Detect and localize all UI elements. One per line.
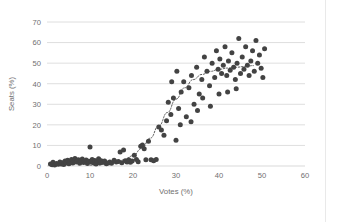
x-tick-label-10: 10 xyxy=(86,171,94,180)
datapoint xyxy=(221,63,226,68)
x-tick-label-20: 20 xyxy=(129,171,137,180)
y-tick-label-10: 10 xyxy=(33,141,41,150)
datapoint xyxy=(243,44,248,49)
datapoint xyxy=(223,44,228,49)
datapoint xyxy=(176,106,181,111)
datapoint xyxy=(214,48,219,53)
datapoint xyxy=(121,147,126,152)
datapoint xyxy=(217,92,222,97)
datapoint xyxy=(207,83,212,88)
y-tick-label-0: 0 xyxy=(37,162,41,171)
scatter-plot: 010203040506070 0102030405060 Seats (%) … xyxy=(0,0,338,222)
datapoint xyxy=(235,61,240,66)
datapoint xyxy=(208,104,213,109)
gridline-group xyxy=(47,22,305,145)
datapoint xyxy=(245,63,250,68)
datapoint xyxy=(204,69,209,74)
x-tick-label-50: 50 xyxy=(258,171,266,180)
datapoint xyxy=(250,48,255,53)
datapoint xyxy=(252,69,257,74)
datapoint xyxy=(210,61,215,66)
x-tick-label-30: 30 xyxy=(172,171,180,180)
datapoint xyxy=(168,112,173,117)
datapoint xyxy=(248,59,253,64)
datapoint xyxy=(260,75,265,80)
datapoint xyxy=(195,108,200,113)
datapoint xyxy=(174,138,179,143)
chart-figure: 010203040506070 0102030405060 Seats (%) … xyxy=(0,0,338,222)
y-tick-label-30: 30 xyxy=(33,100,41,109)
datapoint xyxy=(255,61,260,66)
datapoint xyxy=(192,102,197,107)
y-tick-label-40: 40 xyxy=(33,80,41,89)
datapoint xyxy=(202,54,207,59)
datapoint xyxy=(259,66,264,71)
datapoint xyxy=(178,122,183,127)
y-tick-label-60: 60 xyxy=(33,38,41,47)
x-tick-label-40: 40 xyxy=(215,171,223,180)
datapoint xyxy=(159,128,164,133)
datapoint xyxy=(236,36,241,41)
datapoint xyxy=(136,159,141,164)
datapoint xyxy=(88,145,93,150)
datapoint xyxy=(212,75,217,80)
y-tick-label-50: 50 xyxy=(33,59,41,68)
datapoint xyxy=(161,133,166,138)
datapoint xyxy=(169,79,174,84)
datapoint xyxy=(154,157,159,162)
datapoint xyxy=(189,73,194,78)
datapoint-group xyxy=(48,36,267,168)
datapoint xyxy=(257,52,262,57)
datapoint xyxy=(241,67,246,72)
datapoint xyxy=(197,92,202,97)
datapoint xyxy=(194,65,199,70)
datapoint xyxy=(240,54,245,59)
datapoint xyxy=(224,73,229,78)
y-tick-label-group: 010203040506070 xyxy=(33,18,41,171)
datapoint xyxy=(247,73,252,78)
x-axis-title: Votes (%) xyxy=(159,187,193,196)
datapoint xyxy=(174,69,179,74)
y-axis-title: Seats (%) xyxy=(7,76,16,111)
datapoint xyxy=(225,89,230,94)
datapoint xyxy=(184,114,189,119)
datapoint xyxy=(262,46,267,51)
datapoint xyxy=(231,65,236,70)
datapoint xyxy=(217,57,222,62)
datapoint xyxy=(219,71,224,76)
datapoint xyxy=(229,50,234,55)
datapoint xyxy=(164,118,169,123)
datapoint xyxy=(130,159,135,164)
datapoint xyxy=(166,100,171,105)
datapoint xyxy=(253,38,258,43)
datapoint xyxy=(216,67,221,72)
datapoint xyxy=(179,89,184,94)
datapoint xyxy=(142,146,147,151)
datapoint xyxy=(189,119,194,124)
y-tick-label-70: 70 xyxy=(33,18,41,27)
datapoint xyxy=(200,96,205,101)
datapoint xyxy=(143,157,148,162)
datapoint xyxy=(226,59,231,64)
datapoint xyxy=(186,85,191,90)
datapoint xyxy=(181,79,186,84)
datapoint xyxy=(146,139,151,144)
x-tick-label-group: 0102030405060 xyxy=(45,171,309,180)
datapoint xyxy=(234,86,239,91)
x-tick-label-0: 0 xyxy=(45,171,49,180)
x-tick-label-60: 60 xyxy=(301,171,309,180)
y-tick-label-20: 20 xyxy=(33,121,41,130)
datapoint xyxy=(238,71,243,76)
datapoint xyxy=(233,77,238,82)
datapoint xyxy=(199,77,204,82)
datapoint xyxy=(171,96,176,101)
